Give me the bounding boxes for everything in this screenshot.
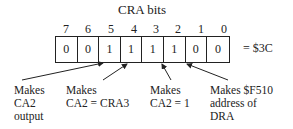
annotation-line: CA2 = 1 <box>150 97 190 110</box>
annotation-bit5: Makes CA2 output <box>14 84 45 123</box>
annotation-line: Makes $F510 <box>210 84 273 97</box>
annotation-line: address of <box>210 97 273 110</box>
annotation-line: CA2 <box>14 97 45 110</box>
arrow-icon <box>162 64 171 80</box>
arrow-icon <box>103 64 127 80</box>
annotation-bit4: Makes CA2 = CRA3 <box>66 84 129 110</box>
annotation-line: Makes <box>14 84 45 97</box>
arrow-icon <box>22 63 103 80</box>
annotation-bit2: Makes $F510 address of DRA <box>210 84 273 123</box>
annotation-line: Makes <box>66 84 129 97</box>
annotation-bit3: Makes CA2 = 1 <box>150 84 190 110</box>
annotation-line: CA2 = CRA3 <box>66 97 129 110</box>
annotation-line: Makes <box>150 84 190 97</box>
annotation-line: DRA <box>210 110 273 123</box>
arrow-icon <box>187 64 228 80</box>
annotation-line: output <box>14 110 45 123</box>
